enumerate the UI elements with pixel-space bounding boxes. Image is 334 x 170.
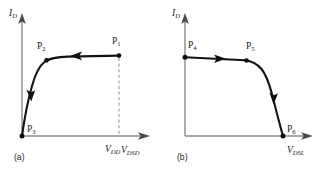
panel-b-tag: (b) <box>177 152 188 162</box>
panel-b-point-label-p4: P4 <box>188 40 197 51</box>
panel-b-y-axis-label: ID <box>171 8 180 19</box>
figure-container: ID VDSD VDD P1 P2 P3 (a) <box>0 0 334 170</box>
panel-b: ID VDSL P4 P5 P6 (b) <box>171 8 313 162</box>
panel-b-steep-arrow <box>269 92 278 104</box>
panel-a-point-p3-marker <box>20 134 25 139</box>
panel-b-y-axis <box>181 13 189 136</box>
panel-a-point-p2-marker <box>44 58 49 63</box>
panel-b-point-p5-marker <box>244 58 249 63</box>
panel-a-x-tick-label-vdd: VDD <box>105 144 121 155</box>
panel-b-point-p4-marker <box>183 55 188 60</box>
panel-a-point-p1-marker <box>117 53 122 58</box>
panel-a-curve <box>22 56 119 136</box>
panel-a-point-label-p3: P3 <box>27 124 36 135</box>
panel-a: ID VDSD VDD P1 P2 P3 (a) <box>8 8 150 162</box>
panel-a-tag: (a) <box>14 152 25 162</box>
panel-a-y-axis-label: ID <box>8 8 17 19</box>
panel-a-point-label-p2: P2 <box>37 41 46 52</box>
panel-a-x-axis-label: VDSD <box>121 145 140 156</box>
panel-b-curve <box>185 57 283 136</box>
panel-b-point-label-p5: P5 <box>246 41 255 52</box>
panel-a-x-axis <box>22 132 150 140</box>
panel-b-point-p6-marker <box>281 134 286 139</box>
panel-b-x-axis-label: VDSL <box>287 145 305 156</box>
panel-b-point-label-p6: P6 <box>287 124 296 135</box>
panel-a-point-label-p1: P1 <box>112 36 121 47</box>
